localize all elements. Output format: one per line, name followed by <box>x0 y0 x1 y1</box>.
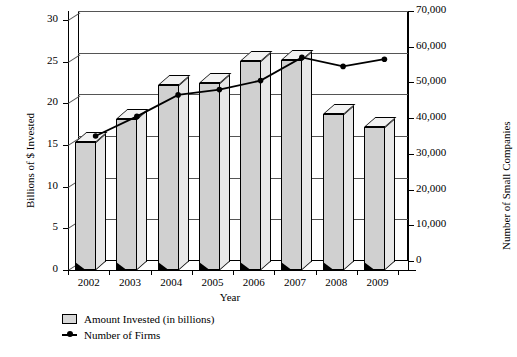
plot-area: 051015202530 010,00020,00030,00040,00050… <box>68 20 398 270</box>
y-axis-right-tick-label: 20,000 <box>416 182 476 194</box>
line-data-point <box>382 56 388 62</box>
y-axis-right-tick-label: 0 <box>416 253 476 265</box>
y-axis-right-tick-label: 60,000 <box>416 39 476 51</box>
x-axis-tick <box>274 270 275 275</box>
x-axis-tick <box>316 270 317 275</box>
y-axis-right-tick-label: 50,000 <box>416 74 476 86</box>
legend-line-dot-icon <box>62 330 77 340</box>
y-axis-right-tick-label: 40,000 <box>416 110 476 122</box>
y-axis-right-title: Number of Small Companies <box>500 121 512 250</box>
x-axis-tick <box>398 270 399 275</box>
line-data-point <box>134 114 140 120</box>
legend-label-number-of-firms: Number of Firms <box>84 329 160 341</box>
legend-label-amount-invested: Amount Invested (in billions) <box>84 313 214 325</box>
line-data-point <box>258 78 264 84</box>
x-axis-tick <box>151 270 152 275</box>
line-path <box>96 57 385 136</box>
x-axis-tick <box>68 270 69 275</box>
y-axis-left-tick-label: 20 <box>18 95 58 107</box>
line-data-point <box>93 133 99 139</box>
y-axis-right-tick-label: 30,000 <box>416 146 476 158</box>
x-axis-tick <box>233 270 234 275</box>
line-data-point <box>175 92 181 98</box>
x-axis-title: Year <box>0 291 460 303</box>
x-axis-tick <box>109 270 110 275</box>
x-axis-tick <box>192 270 193 275</box>
x-axis-tick <box>357 270 358 275</box>
y-axis-left-tick-label: 10 <box>18 179 58 191</box>
y-axis-left-tick-label: 15 <box>18 137 58 149</box>
y-axis-left-tick-label: 30 <box>18 12 58 24</box>
y-axis-right-tick-label: 70,000 <box>416 3 476 15</box>
y-axis-left-tick-label: 0 <box>18 262 58 274</box>
legend-item-amount-invested: Amount Invested (in billions) <box>62 311 214 327</box>
line-data-point <box>217 87 223 93</box>
line-series <box>68 11 416 270</box>
chart-legend: Amount Invested (in billions) Number of … <box>62 311 214 343</box>
line-data-point <box>340 64 346 70</box>
y-axis-left-title: Billions of $ Invested <box>24 113 36 208</box>
x-axis-tick-label: 2009 <box>349 276 405 288</box>
y-axis-left-tick-label: 25 <box>18 54 58 66</box>
y-axis-left-tick-label: 5 <box>18 220 58 232</box>
legend-item-number-of-firms: Number of Firms <box>62 327 214 343</box>
chart-container: Billions of $ Invested Number of Small C… <box>0 0 517 357</box>
y-axis-right-tick-label: 10,000 <box>416 217 476 229</box>
line-data-point <box>299 55 305 61</box>
legend-swatch-icon <box>62 314 77 324</box>
